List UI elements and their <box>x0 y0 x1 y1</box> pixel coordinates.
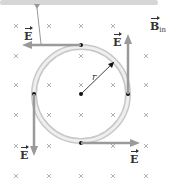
radius-label: r <box>92 72 96 82</box>
e-label-top-right: E <box>113 37 121 48</box>
radius-line <box>81 62 114 94</box>
e-label-top-left: E <box>24 31 32 42</box>
b-field-label: Bin <box>150 21 166 34</box>
e-label-bottom-right: E <box>130 154 138 165</box>
top-bar <box>0 0 158 5</box>
e-label-bottom-left: E <box>20 150 28 161</box>
diagram: E E E E Bin r <box>0 0 170 181</box>
